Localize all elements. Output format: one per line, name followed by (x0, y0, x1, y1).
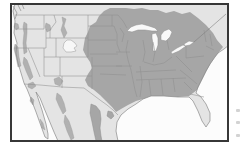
map-canvas (11, 4, 229, 141)
range-patch-cascades (23, 22, 27, 54)
cropped-edge-mark (236, 109, 240, 112)
cropped-edge-mark (236, 121, 240, 124)
us-range-map (0, 0, 242, 150)
cropped-edge-mark (236, 134, 240, 137)
cropped-edge-marks (236, 109, 240, 137)
lake-michigan-shape (152, 33, 158, 51)
range-map-figure (0, 0, 242, 150)
